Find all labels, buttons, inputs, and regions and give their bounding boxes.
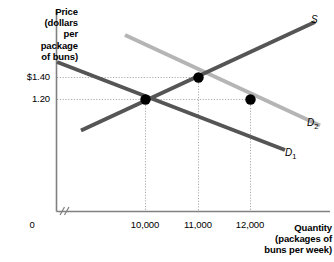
- demand-curve-d2: [125, 35, 320, 126]
- supply-curve-label: S: [311, 14, 318, 25]
- y-axis-title: Price (dollars per package of buns): [0, 6, 78, 62]
- x-tick-label-12000: 12,000: [222, 219, 278, 230]
- point-equilibrium-original: [140, 94, 150, 104]
- point-equilibrium-new: [193, 72, 203, 82]
- y-tick-label-120: 1.20: [4, 93, 50, 104]
- supply-demand-chart: Price (dollars per package of buns) Quan…: [0, 0, 334, 262]
- x-tick-label-11000: 11,000: [170, 219, 226, 230]
- demand-d2-subscript: 2: [314, 122, 318, 131]
- origin-label: 0: [22, 219, 42, 230]
- demand-d1-curve-label: D1: [285, 147, 296, 161]
- demand-d2-curve-label: D2: [307, 117, 318, 131]
- y-tick-label-140: $1.40: [4, 71, 50, 82]
- demand-d1-subscript: 1: [292, 152, 296, 161]
- point-demand-d2: [245, 94, 255, 104]
- x-tick-label-10000: 10,000: [117, 219, 173, 230]
